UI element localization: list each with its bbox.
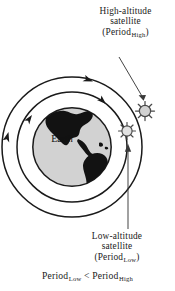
- high-altitude-period-suffix: ): [145, 27, 148, 37]
- caption-subscript2: High: [118, 275, 132, 282]
- low-altitude-satellite-label: Low-altitude satellite (PeriodLow): [62, 231, 172, 262]
- high-altitude-pointer: [119, 57, 146, 101]
- caption-subscript1: Low: [68, 275, 81, 282]
- low-altitude-period-subscript: Low: [123, 256, 136, 263]
- high-altitude-period-prefix: (Period: [102, 27, 131, 37]
- low-altitude-label-period: (PeriodLow): [62, 252, 172, 262]
- high-altitude-label-line2: satellite: [78, 16, 173, 26]
- low-altitude-period-prefix: (Period: [94, 252, 123, 262]
- low-altitude-satellite: [119, 123, 136, 140]
- caption-term2: Period: [92, 270, 118, 281]
- low-altitude-label-line2: satellite: [62, 241, 172, 251]
- caption-term1: Period: [42, 270, 68, 281]
- high-altitude-satellite: [136, 102, 155, 121]
- earth-label: Earth: [40, 133, 84, 144]
- high-altitude-satellite-label: High-altitude satellite (PeriodHigh): [78, 6, 173, 37]
- high-altitude-label-line1: High-altitude: [78, 6, 173, 16]
- high-altitude-label-period: (PeriodHigh): [78, 27, 173, 37]
- orbital-diagram: Earth High-altitude satellite (PeriodHig…: [0, 0, 175, 291]
- high-altitude-period-subscript: High: [131, 31, 145, 38]
- low-altitude-period-suffix: ): [136, 252, 139, 262]
- period-comparison-caption: PeriodLow < PeriodHigh: [0, 271, 175, 282]
- low-altitude-label-line1: Low-altitude: [62, 231, 172, 241]
